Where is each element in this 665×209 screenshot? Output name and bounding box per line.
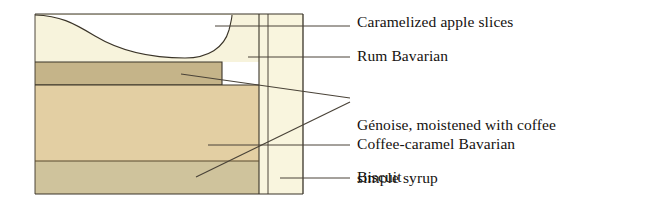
layer-genoise [35,62,222,85]
label-genoise-line-1: Génoise, moistened with coffee [357,116,556,134]
layer-outer-coating [268,14,303,194]
cake-cross-section-figure: Caramelized apple slices Rum Bavarian Gé… [0,0,665,209]
coating-inner-band [259,14,268,194]
label-biscuit: Biscuit [357,168,402,186]
label-caramelized-apple-slices: Caramelized apple slices [357,13,513,31]
layer-coffee-caramel-bavarian [35,85,259,161]
label-coffee-caramel-bavarian: Coffee-caramel Bavarian [357,135,515,153]
layer-biscuit [35,161,259,194]
cross-section-drawing [0,0,665,209]
label-rum-bavarian: Rum Bavarian [357,47,448,65]
